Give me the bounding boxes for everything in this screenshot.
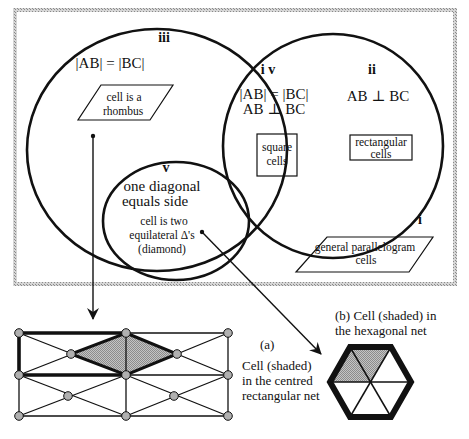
region-ii-condition: AB ⊥ BC xyxy=(347,88,409,104)
region-v-label: v xyxy=(163,160,170,175)
parallelogram-cell-text-1: general parallelogram xyxy=(315,241,416,254)
region-iv-condition-2: AB ⊥ BC xyxy=(243,101,305,117)
region-v-note-3: (diamond) xyxy=(138,243,186,256)
region-v-note-1: cell is two xyxy=(140,215,188,227)
rectangular-cell-text-2: cells xyxy=(370,148,392,160)
parallelogram-cell-text-2: cells xyxy=(355,254,377,266)
shaded-rhombus-cell xyxy=(71,333,177,375)
rhombus-cell-text-2: rhombus xyxy=(103,105,144,117)
hexagonal-net-cell xyxy=(330,347,411,417)
panel-b-caption-2: the hexagonal net xyxy=(335,323,427,338)
region-iii-condition: |AB| = |BC| xyxy=(76,55,145,71)
rhombus-cell-text-1: cell is a xyxy=(106,91,141,103)
panel-b-caption-1: (b) Cell (shaded) in xyxy=(335,308,437,323)
region-v-condition-2: equals side xyxy=(122,193,189,209)
region-iv-label: i v xyxy=(261,62,275,77)
venn-lattice-diagram: iii |AB| = |BC| cell is a rhombus i v |A… xyxy=(0,0,469,439)
square-cell-text-1: square xyxy=(262,141,292,154)
centred-rectangular-net xyxy=(15,329,233,421)
panel-a-caption-2: in the centred xyxy=(242,373,313,388)
region-iv-condition-1: |AB| = |BC| xyxy=(240,86,309,102)
panel-a-caption-1: Cell (shaded) xyxy=(242,358,312,373)
region-ii-label: ii xyxy=(368,62,376,77)
region-v-note-2: equilateral Δ's xyxy=(129,229,195,242)
panel-a-tag: (a) xyxy=(260,337,274,352)
region-iii-label: iii xyxy=(158,30,170,45)
region-v-condition-1: one diagonal xyxy=(123,178,200,194)
panel-a-caption-3: rectangular net xyxy=(242,388,320,403)
square-cell-text-2: cells xyxy=(266,155,288,167)
region-i-label: i xyxy=(418,212,422,227)
